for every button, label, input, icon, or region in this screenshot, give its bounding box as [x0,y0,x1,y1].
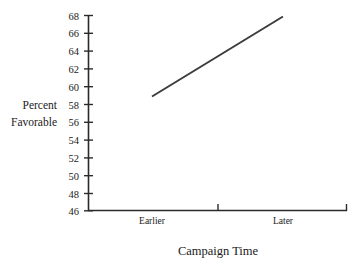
x-tick-label-earlier: Earlier [139,216,166,226]
y-tick-label: 64 [69,46,80,57]
y-tick-label: 58 [69,100,80,111]
y-tick-label: 62 [69,64,80,75]
line-chart: 68 66 64 62 60 58 56 54 52 50 48 46 Perc… [0,0,362,273]
x-tick-label-later: Later [273,216,294,226]
y-tick-label: 66 [69,28,80,39]
chart-background [0,0,362,273]
y-tick-label: 46 [69,206,80,217]
y-tick-label: 56 [69,117,80,128]
y-tick-label: 52 [69,153,80,164]
y-axis-title-line-1: Percent [23,99,58,111]
y-axis-title-line-2: Favorable [11,116,57,128]
y-tick-label: 54 [69,135,80,146]
y-tick-label: 68 [69,11,80,22]
y-tick-label: 60 [69,82,80,93]
x-axis-title: Campaign Time [178,244,259,258]
y-tick-label: 50 [69,171,80,182]
chart-canvas: 68 66 64 62 60 58 56 54 52 50 48 46 Perc… [0,0,362,273]
y-tick-label: 48 [69,189,80,200]
